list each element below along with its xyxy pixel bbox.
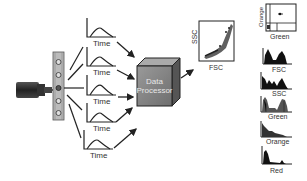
histogram-red: Red bbox=[262, 146, 292, 174]
data-processor-box: Data Processor bbox=[136, 58, 180, 106]
output-arrow bbox=[181, 70, 193, 78]
cell-particle bbox=[56, 111, 61, 116]
laser-icon bbox=[16, 82, 52, 98]
histogram-label: Green bbox=[268, 113, 288, 120]
histogram-label: Orange bbox=[266, 138, 289, 146]
pulse-graph: Time bbox=[87, 47, 116, 77]
histogram-ssc: SSC bbox=[261, 72, 292, 97]
pulse-time-label: Time bbox=[93, 97, 111, 106]
histogram-label: SSC bbox=[272, 90, 286, 97]
quadrant-xlabel: Green bbox=[270, 33, 290, 40]
histogram-fsc: FSC bbox=[263, 48, 292, 73]
cell-particle bbox=[56, 99, 61, 104]
scatter-plot-ssc-fsc: SSC FSC bbox=[191, 21, 234, 71]
processor-label-line2: Processor bbox=[136, 86, 172, 95]
histogram-label: Red bbox=[270, 167, 283, 174]
pulse-graph: Time bbox=[87, 18, 116, 48]
cell-particle bbox=[56, 86, 61, 91]
histogram-orange: Orange bbox=[261, 121, 292, 146]
flow-cell bbox=[53, 52, 64, 120]
pulse-time-label: Time bbox=[93, 68, 111, 77]
quadrant-ylabel: Orange bbox=[258, 6, 264, 27]
cell-particle bbox=[56, 60, 61, 65]
emission-lines bbox=[64, 47, 84, 138]
pulse-time-label: Time bbox=[93, 39, 111, 48]
pulse-graph: Time bbox=[87, 75, 116, 106]
pulse-graph: Time bbox=[84, 130, 113, 160]
flow-cytometry-diagram: Time Time Time Time Time Data Processor bbox=[0, 0, 307, 181]
scatter-xlabel: FSC bbox=[209, 64, 223, 71]
scatter-ylabel: SSC bbox=[191, 30, 198, 44]
pulse-time-label: Time bbox=[93, 124, 111, 133]
signal-arrows bbox=[114, 42, 136, 148]
histogram-green: Green bbox=[261, 96, 292, 120]
pulse-graph: Time bbox=[87, 103, 116, 133]
quadrant-plot-orange-green: Orange Green bbox=[258, 4, 296, 40]
pulse-time-label: Time bbox=[90, 151, 108, 160]
processor-label-line1: Data bbox=[146, 77, 163, 86]
histogram-label: FSC bbox=[272, 66, 286, 73]
cell-particle bbox=[56, 73, 61, 78]
